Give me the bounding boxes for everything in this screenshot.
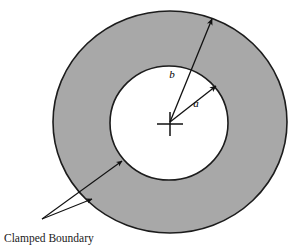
- outer-radius-label: b: [169, 68, 175, 80]
- clamped-boundary-caption: Clamped Boundary: [4, 232, 94, 245]
- leader-line-outer-boundary: [42, 199, 92, 219]
- annulus-figure-container: b a Clamped Boundary: [0, 0, 308, 250]
- inner-boundary-circle: [110, 66, 228, 180]
- clamped-annular-plate-diagram: b a Clamped Boundary: [0, 0, 308, 250]
- inner-radius-label: a: [193, 97, 199, 109]
